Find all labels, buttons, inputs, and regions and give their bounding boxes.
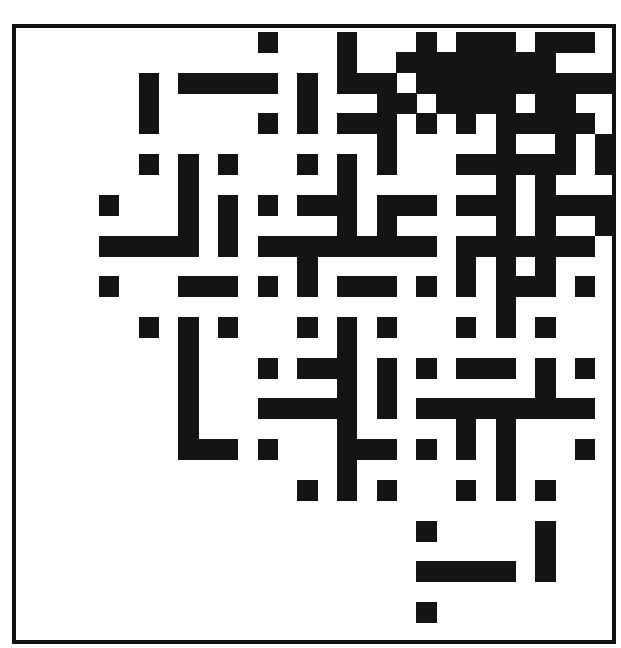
black-cell (476, 236, 496, 257)
black-cell (139, 113, 159, 134)
black-cell (238, 73, 258, 94)
black-cell (377, 113, 397, 134)
black-cell (515, 236, 535, 257)
black-cell (496, 52, 516, 73)
black-cell (456, 439, 476, 460)
black-cell (456, 256, 476, 277)
black-cell (476, 561, 496, 582)
black-cell (258, 276, 278, 297)
black-cell (377, 378, 397, 399)
black-cell (297, 358, 317, 379)
black-cell (218, 236, 238, 257)
black-cell (178, 337, 198, 358)
black-cell (198, 439, 218, 460)
black-cell (178, 317, 198, 338)
black-cell (456, 358, 476, 379)
black-cell (337, 317, 357, 338)
black-cell (555, 236, 575, 257)
black-cell (396, 52, 416, 73)
black-cell (337, 276, 357, 297)
black-cell (416, 521, 436, 542)
black-cell (535, 195, 555, 216)
black-cell (218, 73, 238, 94)
black-cell (595, 195, 615, 216)
black-cell (357, 236, 377, 257)
black-cell (258, 439, 278, 460)
black-cell (377, 215, 397, 236)
black-cell (337, 337, 357, 358)
black-cell (456, 419, 476, 440)
black-cell (377, 398, 397, 419)
black-cell (496, 215, 516, 236)
black-cell (297, 480, 317, 501)
black-cell (377, 276, 397, 297)
black-cell (317, 236, 337, 257)
black-cell (396, 236, 416, 257)
black-cell (575, 276, 595, 297)
black-cell (456, 480, 476, 501)
black-cell (496, 175, 516, 196)
black-cell (456, 154, 476, 175)
black-cell (535, 541, 555, 562)
black-cell (575, 398, 595, 419)
black-cell (535, 32, 555, 53)
black-cell (337, 398, 357, 419)
pattern-grid (20, 32, 615, 643)
black-cell (258, 236, 278, 257)
black-cell (535, 256, 555, 277)
black-cell (456, 195, 476, 216)
black-cell (436, 561, 456, 582)
black-cell (178, 276, 198, 297)
black-cell (218, 154, 238, 175)
black-cell (555, 195, 575, 216)
black-cell (119, 236, 139, 257)
black-cell (178, 215, 198, 236)
black-cell (496, 561, 516, 582)
black-cell (535, 113, 555, 134)
black-cell (456, 317, 476, 338)
black-cell (575, 358, 595, 379)
black-cell (496, 480, 516, 501)
black-cell (496, 317, 516, 338)
black-cell (476, 195, 496, 216)
black-cell (297, 236, 317, 257)
black-cell (357, 73, 377, 94)
black-cell (377, 154, 397, 175)
black-cell (377, 358, 397, 379)
figure-frame (12, 24, 616, 644)
black-cell (535, 73, 555, 94)
black-cell (297, 256, 317, 277)
black-cell (158, 236, 178, 257)
black-cell (416, 602, 436, 623)
black-cell (258, 73, 278, 94)
black-cell (496, 93, 516, 114)
black-cell (139, 236, 159, 257)
black-cell (337, 439, 357, 460)
black-cell (297, 276, 317, 297)
black-cell (496, 256, 516, 277)
black-cell (377, 73, 397, 94)
black-cell (535, 154, 555, 175)
black-cell (377, 195, 397, 216)
black-cell (496, 398, 516, 419)
black-cell (416, 561, 436, 582)
black-cell (555, 93, 575, 114)
black-cell (317, 358, 337, 379)
black-cell (496, 134, 516, 155)
black-cell (535, 521, 555, 542)
black-cell (535, 93, 555, 114)
black-cell (258, 358, 278, 379)
black-cell (178, 398, 198, 419)
black-cell (198, 73, 218, 94)
black-cell (535, 358, 555, 379)
black-cell (555, 32, 575, 53)
black-cell (297, 73, 317, 94)
black-cell (515, 52, 535, 73)
black-cell (575, 73, 595, 94)
black-cell (575, 113, 595, 134)
black-cell (496, 32, 516, 53)
black-cell (297, 113, 317, 134)
black-cell (456, 561, 476, 582)
black-cell (218, 215, 238, 236)
black-cell (456, 236, 476, 257)
